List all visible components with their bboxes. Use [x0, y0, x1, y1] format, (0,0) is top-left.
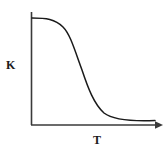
data-curve-series-0	[32, 18, 155, 121]
x-axis-arrowhead-icon	[155, 121, 163, 129]
x-axis-label: T	[93, 134, 101, 146]
chart-figure: K T	[0, 0, 167, 154]
y-axis-label: K	[6, 59, 15, 71]
chart-plot-area	[0, 0, 167, 154]
